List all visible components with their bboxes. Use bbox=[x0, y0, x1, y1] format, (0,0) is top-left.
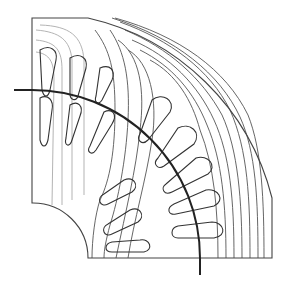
stator-slots bbox=[100, 97, 223, 252]
stator-slot bbox=[156, 126, 197, 167]
flux-lines bbox=[92, 18, 264, 258]
motor-flux-diagram bbox=[0, 0, 285, 290]
stator-slot bbox=[104, 209, 142, 235]
rotor-slot bbox=[66, 103, 82, 145]
stator-slot bbox=[106, 240, 150, 252]
rotor-slot bbox=[89, 111, 115, 153]
stator-slot bbox=[169, 190, 220, 215]
rotor-slots bbox=[40, 48, 114, 153]
flux-lines-light bbox=[36, 25, 84, 205]
rotor-slot bbox=[40, 97, 52, 146]
stator-slot bbox=[139, 97, 172, 143]
rotor-slot bbox=[95, 67, 113, 103]
